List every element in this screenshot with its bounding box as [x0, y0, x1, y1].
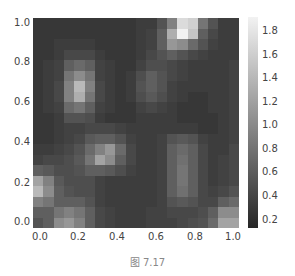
heatmap-cell: [177, 60, 187, 71]
heatmap-cell: [157, 81, 167, 92]
heatmap-cell: [157, 218, 167, 229]
heatmap-cell: [198, 176, 208, 187]
heatmap-cell: [136, 50, 146, 61]
heatmap-cell: [177, 155, 187, 166]
heatmap-cell: [54, 113, 64, 124]
heatmap-cell: [95, 144, 105, 155]
colorbar-tick-label: 0.2: [262, 215, 278, 225]
colorbar-tick-label: 1.6: [262, 50, 278, 60]
heatmap-cell: [105, 186, 115, 197]
heatmap-cell: [208, 92, 218, 103]
heatmap-cell: [126, 50, 136, 61]
heatmap-cell: [43, 218, 53, 229]
heatmap-cell: [136, 186, 146, 197]
heatmap-cell: [115, 60, 125, 71]
heatmap-cell: [188, 197, 198, 208]
heatmap-cell: [43, 102, 53, 113]
heatmap-cell: [229, 18, 239, 29]
heatmap-cell: [157, 29, 167, 40]
heatmap-cell: [54, 39, 64, 50]
heatmap-cell: [218, 123, 228, 134]
heatmap-cell: [218, 218, 228, 229]
heatmap-cell: [167, 186, 177, 197]
heatmap-cell: [105, 165, 115, 176]
heatmap-cell: [43, 81, 53, 92]
heatmap-cell: [208, 134, 218, 145]
heatmap-cell: [167, 176, 177, 187]
heatmap-cell: [218, 39, 228, 50]
heatmap-cell: [95, 60, 105, 71]
heatmap-cell: [126, 207, 136, 218]
heatmap-cell: [64, 60, 74, 71]
heatmap-cell: [105, 123, 115, 134]
heatmap-cell: [33, 186, 43, 197]
heatmap-cell: [208, 155, 218, 166]
heatmap-cell: [115, 176, 125, 187]
heatmap-cell: [146, 18, 156, 29]
heatmap-cell: [177, 186, 187, 197]
heatmap-cell: [115, 71, 125, 82]
heatmap-cell: [85, 92, 95, 103]
heatmap-cell: [74, 18, 84, 29]
heatmap-cell: [105, 155, 115, 166]
heatmap-cell: [136, 60, 146, 71]
heatmap-cell: [167, 29, 177, 40]
heatmap-cell: [146, 165, 156, 176]
heatmap-cell: [157, 134, 167, 145]
heatmap-cell: [188, 176, 198, 187]
heatmap-cell: [177, 113, 187, 124]
heatmap-cell: [218, 18, 228, 29]
heatmap-cell: [105, 102, 115, 113]
x-tick-label: 0.2: [63, 231, 93, 242]
heatmap-cell: [74, 113, 84, 124]
heatmap-cell: [115, 39, 125, 50]
y-tick-label: 0.2: [4, 178, 30, 188]
heatmap-cell: [208, 81, 218, 92]
heatmap-cell: [95, 92, 105, 103]
colorbar-tick-label: 1.2: [262, 97, 278, 107]
heatmap-cell: [74, 144, 84, 155]
heatmap-cell: [33, 165, 43, 176]
heatmap-cell: [64, 144, 74, 155]
heatmap-cell: [95, 39, 105, 50]
heatmap-cell: [146, 134, 156, 145]
heatmap-cell: [157, 155, 167, 166]
heatmap-cell: [188, 60, 198, 71]
colorbar: [248, 17, 258, 228]
heatmap-cell: [74, 186, 84, 197]
heatmap-cell: [54, 92, 64, 103]
heatmap-cell: [74, 60, 84, 71]
heatmap-cell: [115, 186, 125, 197]
heatmap-cell: [146, 102, 156, 113]
heatmap-cell: [95, 81, 105, 92]
heatmap-cell: [218, 29, 228, 40]
heatmap-cell: [126, 18, 136, 29]
heatmap-cell: [64, 176, 74, 187]
heatmap-cell: [208, 60, 218, 71]
heatmap-cell: [198, 123, 208, 134]
heatmap-cell: [54, 155, 64, 166]
heatmap-cell: [218, 71, 228, 82]
heatmap-cell: [64, 134, 74, 145]
heatmap-cell: [64, 218, 74, 229]
heatmap-cell: [198, 218, 208, 229]
heatmap-cell: [43, 176, 53, 187]
heatmap-cell: [136, 197, 146, 208]
heatmap-cell: [74, 218, 84, 229]
heatmap-cell: [95, 207, 105, 218]
heatmap-cell: [218, 81, 228, 92]
heatmap-cell: [229, 29, 239, 40]
heatmap-cell: [198, 29, 208, 40]
heatmap-cell: [85, 123, 95, 134]
heatmap-cell: [188, 186, 198, 197]
heatmap-cell: [208, 197, 218, 208]
heatmap-cell: [85, 113, 95, 124]
heatmap-cell: [95, 71, 105, 82]
heatmap-cell: [85, 134, 95, 145]
heatmap-cell: [218, 176, 228, 187]
heatmap-cell: [85, 29, 95, 40]
heatmap-cell: [126, 81, 136, 92]
heatmap-cell: [43, 39, 53, 50]
heatmap-cell: [136, 29, 146, 40]
heatmap-cell: [126, 218, 136, 229]
